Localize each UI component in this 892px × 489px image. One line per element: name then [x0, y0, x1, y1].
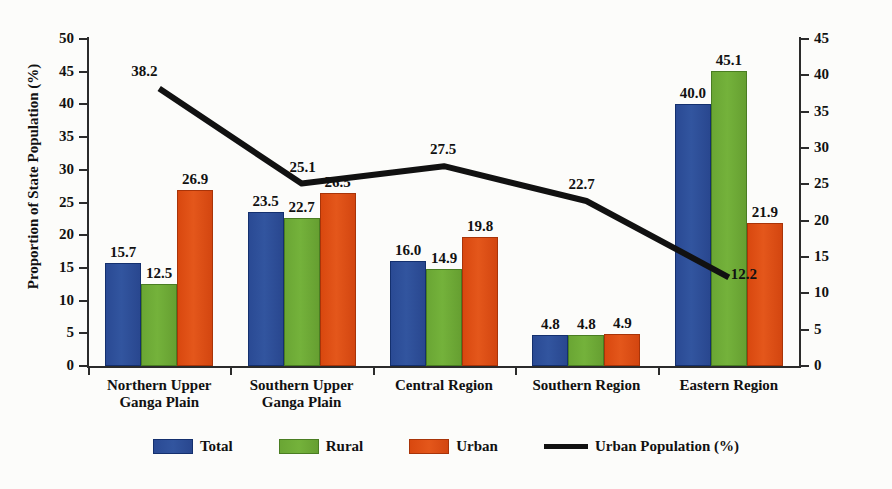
- x-axis-tick: [658, 366, 660, 375]
- x-axis-tick: [373, 366, 375, 375]
- y-axis-left-tick-label: 30: [40, 162, 74, 177]
- line-value-label: 25.1: [290, 160, 316, 175]
- y-axis-right-tick: [800, 329, 809, 331]
- y-axis-right-tick-label: 5: [814, 322, 822, 337]
- y-axis-right-tick-label: 40: [814, 67, 829, 82]
- y-axis-right-tick: [800, 220, 809, 222]
- y-axis-left-tick-label: 25: [40, 195, 74, 210]
- x-axis-category-label: Southern UpperGanga Plain: [230, 377, 372, 411]
- line-value-label: 38.2: [131, 64, 157, 79]
- y-axis-right-tick: [800, 365, 809, 367]
- y-axis-right-tick: [800, 183, 809, 185]
- y-axis-left-tick: [79, 38, 88, 40]
- y-axis-left-tick-label: 15: [40, 260, 74, 275]
- chart-figure: Proportion of State Population (%) Urban…: [0, 0, 892, 489]
- legend-label-total: Total: [200, 438, 233, 455]
- x-axis-category-label: Southern Region: [515, 377, 657, 394]
- y-axis-left-tick: [79, 332, 88, 334]
- y-axis-left-tick-label: 0: [40, 358, 74, 373]
- y-axis-right-tick-label: 45: [814, 31, 829, 46]
- y-axis-left-tick-label: 45: [40, 64, 74, 79]
- y-axis-title-left: Proportion of State Population (%): [25, 37, 42, 317]
- y-axis-left-tick-label: 20: [40, 227, 74, 242]
- legend-label-urban-population: Urban Population (%): [595, 438, 739, 455]
- y-axis-right-tick-label: 15: [814, 249, 829, 264]
- y-axis-left-tick: [79, 267, 88, 269]
- urban-population-line: [159, 88, 729, 277]
- x-axis-category-label: Central Region: [373, 377, 515, 394]
- x-axis-tick: [515, 366, 517, 375]
- line-value-label: 22.7: [568, 177, 594, 192]
- y-axis-left-tick: [79, 169, 88, 171]
- legend-item-urban-population[interactable]: Urban Population (%): [544, 438, 739, 455]
- y-axis-right-tick: [800, 256, 809, 258]
- y-axis-right-tick-label: 25: [814, 176, 829, 191]
- y-axis-left-tick: [79, 136, 88, 138]
- legend-swatch-rural-icon: [279, 439, 319, 454]
- y-axis-right-tick-label: 0: [814, 358, 822, 373]
- y-axis-right-tick: [800, 147, 809, 149]
- y-axis-right-tick: [800, 292, 809, 294]
- x-axis-tick: [230, 366, 232, 375]
- legend-swatch-total-icon: [153, 439, 193, 454]
- x-axis-line: [87, 366, 801, 368]
- x-axis-tick: [88, 366, 90, 375]
- legend-swatch-line-icon: [544, 444, 588, 449]
- legend-swatch-urban-icon: [409, 439, 449, 454]
- y-axis-right-tick-label: 10: [814, 285, 829, 300]
- y-axis-left-tick: [79, 103, 88, 105]
- x-axis-category-label: Eastern Region: [658, 377, 800, 394]
- legend-item-urban[interactable]: Urban: [409, 438, 498, 455]
- y-axis-right-tick: [800, 111, 809, 113]
- y-axis-left-tick: [79, 365, 88, 367]
- y-axis-left-tick: [79, 202, 88, 204]
- y-axis-right-tick-label: 30: [814, 140, 829, 155]
- chart-legend: Total Rural Urban Urban Population (%): [0, 438, 892, 455]
- x-axis-category-label: Northern UpperGanga Plain: [88, 377, 230, 411]
- legend-label-urban: Urban: [456, 438, 498, 455]
- y-axis-right-tick-label: 35: [814, 104, 829, 119]
- y-axis-right-tick-label: 20: [814, 213, 829, 228]
- y-axis-right-tick: [800, 74, 809, 76]
- y-axis-left-tick-label: 35: [40, 129, 74, 144]
- y-axis-left-tick-label: 40: [40, 96, 74, 111]
- y-axis-left-tick-label: 10: [40, 293, 74, 308]
- legend-label-rural: Rural: [326, 438, 364, 455]
- y-axis-left-tick-label: 5: [40, 325, 74, 340]
- y-axis-left-tick: [79, 71, 88, 73]
- legend-item-rural[interactable]: Rural: [279, 438, 364, 455]
- legend-item-total[interactable]: Total: [153, 438, 233, 455]
- line-value-label: 12.2: [731, 267, 757, 282]
- y-axis-right-tick: [800, 38, 809, 40]
- y-axis-left-tick: [79, 300, 88, 302]
- line-value-label: 27.5: [430, 142, 456, 157]
- line-series-layer: [88, 39, 800, 366]
- y-axis-left-tick: [79, 234, 88, 236]
- y-axis-left-tick-label: 50: [40, 31, 74, 46]
